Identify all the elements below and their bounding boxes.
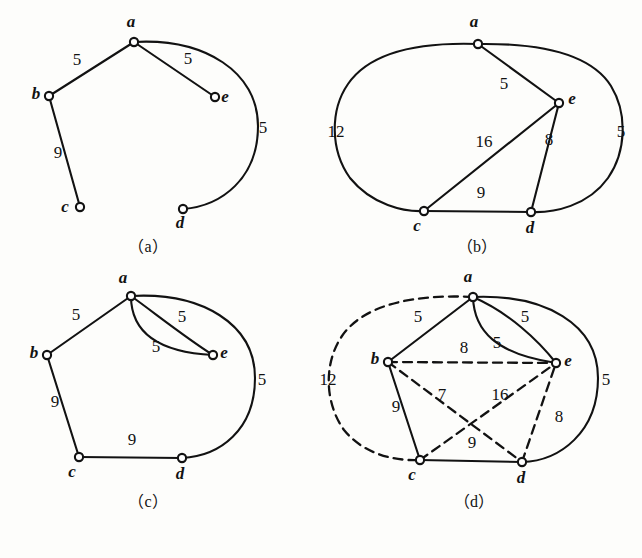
c-edge-c-d-weight: 9 bbox=[128, 430, 137, 449]
d-edge-a-d-outer bbox=[473, 297, 598, 462]
c-node-label-b: b bbox=[30, 343, 39, 362]
a-node-label-b: b bbox=[32, 84, 41, 103]
d-node-d[interactable] bbox=[518, 458, 526, 466]
a-edge-a-b-weight: 5 bbox=[73, 50, 82, 69]
d-edge-a-c-outer-dashed-weight: 12 bbox=[320, 370, 337, 389]
c-node-label-a: a bbox=[119, 268, 128, 287]
a-node-c[interactable] bbox=[76, 203, 84, 211]
a-node-b[interactable] bbox=[45, 92, 53, 100]
d-node-label-b: b bbox=[371, 349, 380, 368]
d-edge-c-e-dashed-weight: 16 bbox=[492, 385, 509, 404]
a-node-d[interactable] bbox=[179, 205, 187, 213]
d-edge-c-d-weight: 9 bbox=[468, 433, 477, 452]
panel-caption-b: （b） bbox=[457, 238, 497, 255]
a-edge-a-e bbox=[134, 42, 215, 97]
b-node-a[interactable] bbox=[474, 40, 482, 48]
b-edge-e-c-weight: 16 bbox=[476, 132, 493, 151]
d-edge-b-c-weight: 9 bbox=[392, 397, 401, 416]
c-node-e[interactable] bbox=[209, 351, 217, 359]
b-edge-a-e bbox=[478, 44, 559, 103]
d-edge-a-d-outer-weight: 5 bbox=[602, 370, 611, 389]
d-node-label-e: e bbox=[564, 351, 572, 370]
d-edge-c-d bbox=[420, 460, 522, 462]
b-node-label-d: d bbox=[526, 218, 535, 237]
b-edge-e-c bbox=[424, 103, 559, 211]
panel-d: 5995558716812abcde（d） bbox=[320, 267, 611, 510]
figure-root: 5595abcde（a）51689125acde（b）599555abcde（c… bbox=[0, 0, 642, 558]
c-edge-a-d-outer bbox=[131, 296, 255, 458]
a-node-label-e: e bbox=[221, 87, 229, 106]
d-edge-d-e-dashed-weight: 8 bbox=[555, 407, 564, 426]
b-edge-c-d bbox=[424, 211, 531, 212]
c-node-d[interactable] bbox=[178, 454, 186, 462]
c-node-label-d: d bbox=[176, 464, 185, 483]
c-node-label-e: e bbox=[220, 343, 228, 362]
b-node-label-c: c bbox=[413, 216, 421, 235]
d-node-label-d: d bbox=[517, 468, 526, 487]
b-node-d[interactable] bbox=[527, 208, 535, 216]
d-edge-a-b-weight: 5 bbox=[414, 307, 423, 326]
d-edge-b-d-dashed bbox=[388, 362, 522, 462]
panel-caption-a: （a） bbox=[128, 238, 167, 255]
d-node-a[interactable] bbox=[469, 293, 477, 301]
b-node-label-a: a bbox=[470, 12, 479, 31]
b-edge-c-d-weight: 9 bbox=[477, 183, 486, 202]
panel-c: 599555abcde（c） bbox=[30, 268, 267, 510]
d-edge-b-e-dashed-weight: 8 bbox=[460, 338, 469, 357]
c-edge-a-e-lower-weight: 5 bbox=[152, 337, 161, 356]
a-node-e[interactable] bbox=[211, 93, 219, 101]
c-edge-a-b-weight: 5 bbox=[72, 305, 81, 324]
a-edge-a-d-curve-weight: 5 bbox=[259, 118, 268, 137]
c-edge-b-c-weight: 9 bbox=[51, 392, 60, 411]
b-edge-a-c-outer-weight: 12 bbox=[328, 122, 345, 141]
panel-caption-c: （c） bbox=[128, 493, 167, 510]
c-edge-a-d-outer-weight: 5 bbox=[258, 370, 267, 389]
a-edge-a-d-curve bbox=[134, 42, 258, 209]
a-node-label-a: a bbox=[127, 12, 136, 31]
d-edge-b-d-dashed-weight: 7 bbox=[438, 385, 447, 404]
d-node-b[interactable] bbox=[384, 358, 392, 366]
d-edge-c-e-dashed bbox=[420, 363, 556, 460]
figure-canvas: 5595abcde（a）51689125acde（b）599555abcde（c… bbox=[0, 0, 642, 558]
b-node-label-e: e bbox=[568, 89, 576, 108]
c-edge-a-b bbox=[47, 296, 131, 355]
d-node-label-a: a bbox=[464, 267, 473, 286]
d-edge-a-c-outer-dashed bbox=[329, 296, 473, 460]
d-node-e[interactable] bbox=[552, 359, 560, 367]
b-edge-e-d-weight: 8 bbox=[545, 130, 554, 149]
c-node-b[interactable] bbox=[43, 351, 51, 359]
a-edge-a-b bbox=[49, 42, 134, 96]
panel-b: 51689125acde（b） bbox=[328, 12, 626, 255]
d-node-c[interactable] bbox=[416, 456, 424, 464]
c-edge-a-e-upper-weight: 5 bbox=[178, 307, 187, 326]
a-edge-a-e-weight: 5 bbox=[184, 49, 193, 68]
a-node-a[interactable] bbox=[130, 38, 138, 46]
d-edge-a-e-lower-weight: 5 bbox=[493, 333, 502, 352]
a-edge-b-c-weight: 9 bbox=[54, 143, 63, 162]
panel-caption-d: （d） bbox=[454, 493, 494, 510]
d-node-label-c: c bbox=[408, 465, 416, 484]
b-node-e[interactable] bbox=[555, 99, 563, 107]
a-node-label-c: c bbox=[61, 197, 69, 216]
c-edge-c-d bbox=[79, 457, 182, 458]
a-node-label-d: d bbox=[176, 213, 185, 232]
d-edge-a-e-upper-weight: 5 bbox=[521, 307, 530, 326]
c-node-a[interactable] bbox=[127, 292, 135, 300]
c-node-c[interactable] bbox=[75, 453, 83, 461]
b-edge-a-e-weight: 5 bbox=[500, 74, 509, 93]
b-edge-a-d-outer bbox=[478, 44, 623, 212]
d-edge-d-e-dashed bbox=[522, 363, 556, 462]
c-node-label-c: c bbox=[68, 462, 76, 481]
panel-a: 5595abcde（a） bbox=[32, 12, 268, 255]
b-edge-e-d bbox=[531, 103, 559, 212]
b-node-c[interactable] bbox=[420, 207, 428, 215]
d-edge-b-e-dashed bbox=[388, 362, 556, 363]
b-edge-a-d-outer-weight: 5 bbox=[617, 122, 626, 141]
